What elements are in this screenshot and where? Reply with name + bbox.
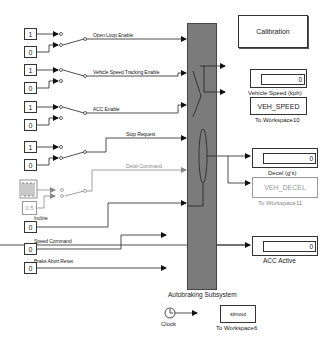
to-workspace11-label: To Workspace11 [258,200,302,206]
calibration-block[interactable]: Calibration [238,15,308,48]
to-workspace6-label: To Workspace6 [216,325,257,331]
decel-value: 0 [263,153,316,164]
vehicle-speed-display-block[interactable]: 0 [250,69,307,88]
vehicle-speed-label: Vehicle Speed (kph) [248,90,302,96]
acc-active-label: ACC Active [263,258,296,265]
subsystem-internal-lines [0,0,328,338]
decel-label: Decel (g's) [268,170,297,176]
vehicle-speed-value: 0 [261,74,305,85]
simulink-diagram-canvas: 1 0 1 0 1 0 1 0 0.5 0 0 0 Open Loop Enab… [0,0,328,338]
decel-display-block[interactable]: 0 [252,148,318,168]
veh-decel-workspace-block[interactable]: VEH_DECEL [252,177,318,198]
veh-speed-workspace-block[interactable]: VEH_SPEED [250,97,307,115]
clock-label: Clock [161,321,176,327]
subsystem-label: Autobraking Subsystem [168,292,237,299]
acc-active-display-block[interactable]: 0 [252,236,318,256]
to-workspace10-label: To Workspace10 [255,117,300,123]
acc-active-value: 0 [263,241,316,252]
simout-workspace-block[interactable]: simout [220,305,256,323]
